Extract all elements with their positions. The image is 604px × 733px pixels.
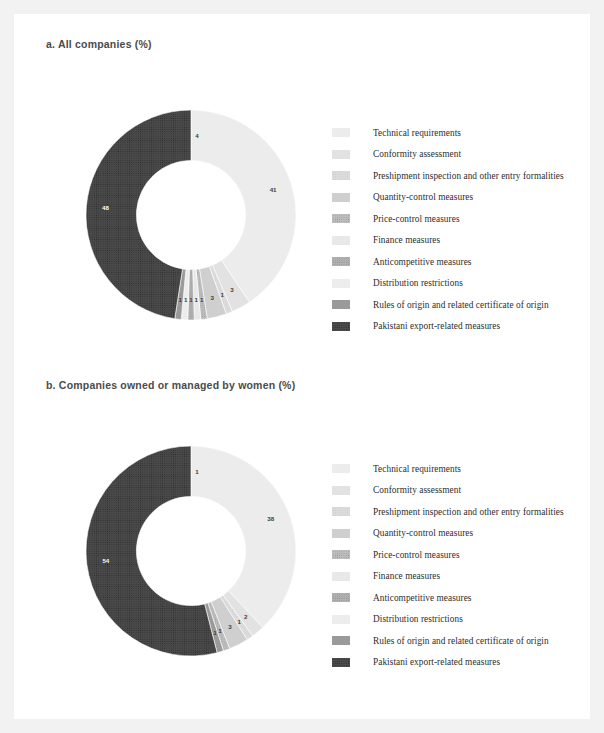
- slice-value-label: 1: [218, 627, 222, 634]
- legend-item-label: Distribution restrictions: [373, 614, 463, 624]
- legend-item: Quantity-control measures: [332, 187, 564, 209]
- slice-value-label: 48: [102, 204, 109, 211]
- legend-item-label: Conformity assessment: [373, 485, 461, 495]
- legend-item-label: Rules of origin and related certificate …: [373, 636, 549, 646]
- legend-item: Conformity assessment: [332, 144, 564, 166]
- legend-swatch: [332, 572, 350, 581]
- legend-swatch: [332, 658, 350, 667]
- legend-item: Pakistani export-related measures: [332, 652, 564, 674]
- legend-item: Technical requirements: [332, 458, 564, 480]
- legend-item-label: Finance measures: [373, 235, 440, 245]
- legend-swatch: [332, 171, 350, 180]
- legend-item-label: Rules of origin and related certificate …: [373, 300, 549, 310]
- legend-swatch: [332, 550, 350, 559]
- legend-swatch: [332, 279, 350, 288]
- slice-value-label: 1: [184, 296, 188, 303]
- donut-chart-all-companies: 4131311111484: [80, 102, 302, 328]
- legend-item-label: Preshipment inspection and other entry f…: [373, 507, 564, 517]
- legend-item: Rules of origin and related certificate …: [332, 630, 564, 652]
- legend-item: Conformity assessment: [332, 480, 564, 502]
- slice-value-label: 1: [221, 291, 225, 298]
- legend-swatch: [332, 486, 350, 495]
- slice-value-label: 1: [238, 618, 242, 625]
- slice-value-label: 3: [228, 623, 232, 630]
- slice-top-label: 4: [195, 132, 199, 139]
- legend-item: Anticompetitive measures: [332, 251, 564, 273]
- slice-value-label: 3: [210, 294, 214, 301]
- legend-item-label: Technical requirements: [373, 128, 461, 138]
- slice-value-label: 54: [102, 557, 109, 564]
- legend-item-label: Price-control measures: [373, 214, 460, 224]
- slice-value-label: 1: [213, 629, 217, 636]
- panel-a-title: a. All companies (%): [46, 38, 152, 50]
- legend-swatch: [332, 257, 350, 266]
- slice-value-label: 1: [195, 296, 199, 303]
- legend-swatch: [332, 529, 350, 538]
- legend-item: Price-control measures: [332, 208, 564, 230]
- legend-item: Technical requirements: [332, 122, 564, 144]
- slice-value-label: 1: [189, 296, 193, 303]
- legend-swatch: [332, 150, 350, 159]
- legend-swatch: [332, 615, 350, 624]
- legend-item: Quantity-control measures: [332, 523, 564, 545]
- legend-item: Preshipment inspection and other entry f…: [332, 501, 564, 523]
- legend-swatch: [332, 300, 350, 309]
- legend-item: Finance measures: [332, 566, 564, 588]
- legend-item-label: Distribution restrictions: [373, 278, 463, 288]
- donut-chart-women-companies: 3821311541: [80, 438, 302, 664]
- legend-item-label: Price-control measures: [373, 550, 460, 560]
- legend-item: Distribution restrictions: [332, 273, 564, 295]
- legend-item: Distribution restrictions: [332, 609, 564, 631]
- legend-swatch: [332, 128, 350, 137]
- legend-swatch: [332, 214, 350, 223]
- legend-item-label: Technical requirements: [373, 464, 461, 474]
- legend-swatch: [332, 464, 350, 473]
- slice-value-label: 3: [230, 286, 234, 293]
- legend-item: Rules of origin and related certificate …: [332, 294, 564, 316]
- legend-women-companies: Technical requirementsConformity assessm…: [332, 458, 564, 673]
- slice-top-label: 1: [195, 468, 199, 475]
- legend-item-label: Finance measures: [373, 571, 440, 581]
- legend-item-label: Quantity-control measures: [373, 528, 473, 538]
- legend-item-label: Anticompetitive measures: [373, 593, 472, 603]
- slice-value-label: 38: [267, 515, 274, 522]
- figure-card: a. All companies (%) 4131311111484 Techn…: [14, 14, 590, 719]
- legend-item-label: Pakistani export-related measures: [373, 321, 500, 331]
- legend-item-label: Quantity-control measures: [373, 192, 473, 202]
- slice-value-label: 1: [200, 296, 204, 303]
- donut-slice: [191, 446, 296, 628]
- legend-item-label: Preshipment inspection and other entry f…: [373, 171, 564, 181]
- legend-item-label: Anticompetitive measures: [373, 257, 472, 267]
- legend-all-companies: Technical requirementsConformity assessm…: [332, 122, 564, 337]
- legend-swatch: [332, 193, 350, 202]
- legend-item: Anticompetitive measures: [332, 587, 564, 609]
- donut-slice: [86, 110, 191, 319]
- legend-item: Finance measures: [332, 230, 564, 252]
- legend-item: Pakistani export-related measures: [332, 316, 564, 338]
- legend-swatch: [332, 322, 350, 331]
- slice-value-label: 1: [179, 296, 183, 303]
- legend-item: Preshipment inspection and other entry f…: [332, 165, 564, 187]
- slice-value-label: 41: [270, 186, 277, 193]
- panel-b-title: b. Companies owned or managed by women (…: [46, 379, 295, 391]
- legend-swatch: [332, 636, 350, 645]
- legend-swatch: [332, 593, 350, 602]
- legend-swatch: [332, 507, 350, 516]
- legend-item-label: Conformity assessment: [373, 149, 461, 159]
- legend-swatch: [332, 236, 350, 245]
- slice-value-label: 2: [244, 613, 248, 620]
- legend-item-label: Pakistani export-related measures: [373, 657, 500, 667]
- legend-item: Price-control measures: [332, 544, 564, 566]
